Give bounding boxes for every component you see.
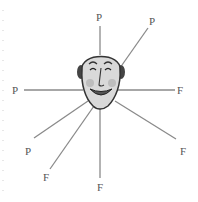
ray-line-5 bbox=[50, 106, 94, 169]
smiling-man-face-icon bbox=[77, 57, 125, 110]
ray-label-p: P bbox=[96, 11, 102, 23]
ray-label-p: P bbox=[25, 145, 31, 157]
ray-line-4 bbox=[34, 101, 88, 138]
ray-line-1 bbox=[122, 28, 148, 65]
face-ray-diagram: PPPFPFFF bbox=[0, 0, 198, 202]
ray-label-f: F bbox=[43, 171, 49, 183]
ray-label-p: P bbox=[12, 84, 18, 96]
ray-label-f: F bbox=[180, 145, 186, 157]
ray-line-7 bbox=[115, 101, 176, 139]
ray-label-f: F bbox=[177, 84, 183, 96]
ray-label-f: F bbox=[97, 181, 103, 193]
ray-label-p: P bbox=[149, 15, 155, 27]
